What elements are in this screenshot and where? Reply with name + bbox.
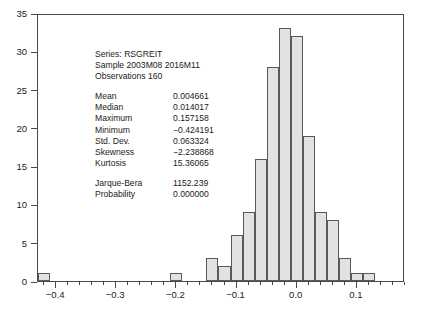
histogram-figure: 05101520253035 Series: RSGREIT Sample 20… xyxy=(0,0,423,321)
series-name: Series: RSGREIT xyxy=(95,49,214,60)
x-axis-major-tick xyxy=(296,282,297,288)
statistic-value: 15.36065 xyxy=(173,158,214,169)
statistic-label: Mean xyxy=(95,91,173,102)
statistic-label: Jarque-Bera xyxy=(95,178,173,189)
statistic-label: Minimum xyxy=(95,125,173,136)
x-axis-minor-tick xyxy=(199,282,200,285)
x-axis: −0.4−0.3−0.2−0.10.00.1 xyxy=(37,282,404,321)
x-axis-label: −0.2 xyxy=(155,290,195,300)
histogram-bar xyxy=(291,36,303,281)
sample-range: Sample 2003M08 2016M11 xyxy=(95,60,214,71)
x-axis-major-tick xyxy=(236,282,237,288)
statistics-header: Series: RSGREIT Sample 2003M08 2016M11 O… xyxy=(95,49,214,82)
normality-test-table: Jarque-Bera1152.239Probability0.000000 xyxy=(95,178,209,200)
x-axis-minor-tick xyxy=(43,282,44,285)
statistic-value: 0.157158 xyxy=(173,113,214,124)
y-axis-label: 20 xyxy=(0,124,27,134)
spacer xyxy=(95,169,214,178)
histogram-bar xyxy=(206,258,218,281)
x-axis-minor-tick xyxy=(224,282,225,285)
statistic-row: Mean0.004661 xyxy=(95,91,214,102)
statistic-label: Std. Dev. xyxy=(95,136,173,147)
x-axis-minor-tick xyxy=(260,282,261,285)
y-axis-label: 15 xyxy=(0,162,27,172)
x-axis-label: −0.3 xyxy=(95,290,135,300)
x-axis-minor-tick xyxy=(392,282,393,285)
statistic-label: Maximum xyxy=(95,113,173,124)
x-axis-major-tick xyxy=(356,282,357,288)
x-axis-minor-tick xyxy=(67,282,68,285)
statistic-value: −2.238868 xyxy=(173,147,214,158)
histogram-bars xyxy=(38,15,403,281)
histogram-bar xyxy=(327,220,339,281)
x-axis-minor-tick xyxy=(163,282,164,285)
y-axis: 05101520253035 xyxy=(0,0,37,321)
x-axis-minor-tick xyxy=(368,282,369,285)
statistic-row: Probability0.000000 xyxy=(95,189,209,200)
spacer xyxy=(95,82,214,91)
y-axis-label: 0 xyxy=(0,277,27,287)
x-axis-minor-tick xyxy=(248,282,249,285)
x-axis-minor-tick xyxy=(308,282,309,285)
statistic-row: Std. Dev.0.063324 xyxy=(95,136,214,147)
histogram-bar xyxy=(351,273,363,281)
x-axis-minor-tick xyxy=(151,282,152,285)
x-axis-label: −0.1 xyxy=(216,290,256,300)
y-axis-label: 10 xyxy=(0,200,27,210)
x-axis-minor-tick xyxy=(320,282,321,285)
statistic-value: 0.063324 xyxy=(173,136,214,147)
statistic-label: Kurtosis xyxy=(95,158,173,169)
plot-area: Series: RSGREIT Sample 2003M08 2016M11 O… xyxy=(37,14,404,282)
statistic-row: Median0.014017 xyxy=(95,102,214,113)
histogram-bar xyxy=(170,273,182,281)
statistic-value: 0.014017 xyxy=(173,102,214,113)
x-axis-major-tick xyxy=(55,282,56,288)
x-axis-minor-tick xyxy=(272,282,273,285)
descriptive-statistics-table: Mean0.004661Median0.014017Maximum0.15715… xyxy=(95,91,214,169)
x-axis-minor-tick xyxy=(91,282,92,285)
statistic-row: Skewness−2.238868 xyxy=(95,147,214,158)
statistic-row: Minimum−0.424191 xyxy=(95,125,214,136)
x-axis-minor-tick xyxy=(284,282,285,285)
histogram-bar xyxy=(315,212,327,281)
histogram-bar xyxy=(279,28,291,281)
histogram-bar xyxy=(38,273,50,281)
statistics-panel: Series: RSGREIT Sample 2003M08 2016M11 O… xyxy=(95,49,214,200)
histogram-bar xyxy=(267,67,279,281)
x-axis-minor-tick xyxy=(139,282,140,285)
histogram-bar xyxy=(339,258,351,281)
x-axis-minor-tick xyxy=(187,282,188,285)
statistic-value: 1152.239 xyxy=(173,178,209,189)
x-axis-label: 0.1 xyxy=(336,290,376,300)
statistic-label: Median xyxy=(95,102,173,113)
y-axis-label: 30 xyxy=(0,47,27,57)
x-axis-minor-tick xyxy=(404,282,405,285)
statistic-value: 0.000000 xyxy=(173,189,209,200)
statistic-value: 0.004661 xyxy=(173,91,214,102)
x-axis-label: 0.0 xyxy=(276,290,316,300)
statistic-label: Probability xyxy=(95,189,173,200)
statistic-row: Kurtosis15.36065 xyxy=(95,158,214,169)
x-axis-minor-tick xyxy=(127,282,128,285)
statistic-row: Jarque-Bera1152.239 xyxy=(95,178,209,189)
x-axis-minor-tick xyxy=(103,282,104,285)
statistic-value: −0.424191 xyxy=(173,125,214,136)
statistic-label: Skewness xyxy=(95,147,173,158)
observations-count: Observations 160 xyxy=(95,71,214,82)
histogram-bar xyxy=(243,212,255,281)
x-axis-minor-tick xyxy=(79,282,80,285)
y-axis-label: 5 xyxy=(0,239,27,249)
x-axis-label: −0.4 xyxy=(35,290,75,300)
histogram-bar xyxy=(255,159,267,282)
histogram-bar xyxy=(218,266,230,281)
x-axis-major-tick xyxy=(175,282,176,288)
histogram-bar xyxy=(231,235,243,281)
y-axis-label: 35 xyxy=(0,9,27,19)
x-axis-minor-tick xyxy=(211,282,212,285)
x-axis-minor-tick xyxy=(380,282,381,285)
x-axis-major-tick xyxy=(115,282,116,288)
y-axis-label: 25 xyxy=(0,86,27,96)
histogram-bar xyxy=(303,136,315,281)
x-axis-minor-tick xyxy=(332,282,333,285)
x-axis-minor-tick xyxy=(344,282,345,285)
